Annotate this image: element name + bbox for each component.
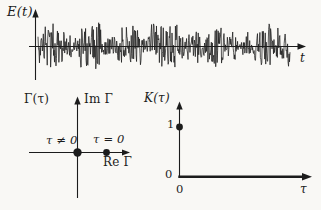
field-ylabel: E(t) (7, 5, 33, 18)
k-value-one-point (176, 124, 183, 131)
coherence-functions-figure: E(t) t Γ(τ) Im Γ τ ≠ 0 τ = 0 Re Γ K(τ) 1… (0, 0, 321, 210)
gamma-origin-point-label: τ ≠ 0 (46, 135, 78, 147)
k-tick-zero-y-label: 0 (165, 169, 173, 181)
field-plot (29, 9, 306, 80)
gamma-origin-point (73, 148, 81, 156)
gamma-tau-zero-point-label: τ = 0 (93, 134, 125, 146)
gamma-im-axis-label: Im Γ (84, 93, 113, 105)
field-vertical-axis-arrowhead-icon (32, 9, 38, 18)
k-tau-axis-arrowhead-icon (302, 173, 312, 180)
k-xlabel: τ (300, 183, 307, 195)
k-vertical-axis-arrowhead-icon (176, 102, 182, 110)
k-tick-one-label: 1 (167, 119, 175, 131)
field-time-axis-arrowhead-icon (298, 43, 307, 49)
k-plot (176, 102, 312, 181)
k-title: K(τ) (144, 92, 170, 104)
k-tick-zero-x-label: 0 (176, 184, 184, 196)
gamma-imaginary-axis-arrowhead-icon (74, 97, 80, 105)
gamma-title: Γ(τ) (24, 93, 49, 105)
noise-waveform (38, 23, 290, 69)
field-xlabel: t (300, 52, 305, 64)
gamma-plot (29, 97, 130, 199)
gamma-re-axis-label: Re Γ (103, 156, 132, 168)
